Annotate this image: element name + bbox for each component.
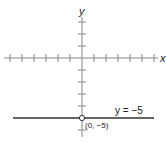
- open-point-marker: [79, 115, 84, 120]
- coordinate-plane: y x y = −5 (0, −5): [0, 0, 166, 143]
- point-coordinate-label: (0, −5): [85, 121, 109, 130]
- y-axis-label: y: [78, 5, 86, 17]
- line-equation-label: y = −5: [115, 105, 143, 116]
- x-axis: [4, 54, 158, 62]
- x-axis-label: x: [159, 52, 166, 64]
